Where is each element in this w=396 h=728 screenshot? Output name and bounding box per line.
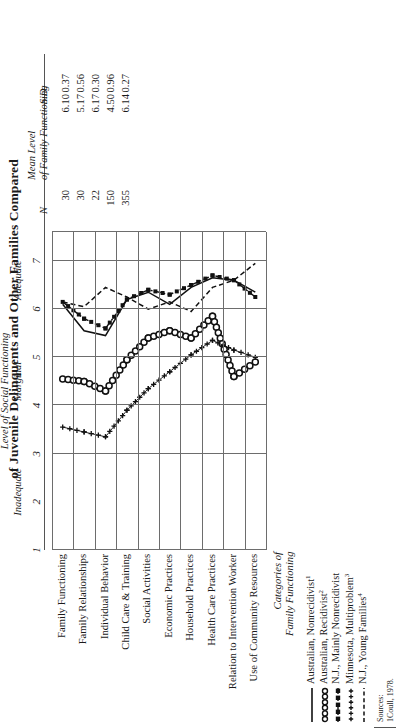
legend-footnote-ref: 3 [343,574,351,578]
axis-zone-adequate: Adequate [12,248,23,312]
sd-value: 0.37 [60,74,71,104]
category-label-9: Use of Community Resources [248,550,259,722]
n-value: 30 [60,190,71,214]
legend-marker-solid-line [307,688,317,722]
sd-value: 0.56 [75,74,86,104]
legend-marker-open-circles [320,688,330,722]
legend-swatch-solid-line [307,688,317,722]
scale-gridline-6 [52,308,266,309]
sd-column-header: S.D. [38,86,49,104]
n-value: 22 [90,190,101,214]
legend-swatch-plus-signs [346,688,356,722]
mean-level-value: 6.17 [90,94,101,180]
legend-label: N.J., Mainly Nonrecidivist [330,573,341,684]
mean-column-header-line1: Mean Level [26,131,37,180]
axis-zone-inadequate: Inadequate [12,460,23,524]
category-gridline [245,232,246,550]
scale-gridline-3 [52,453,266,454]
n-column-header: N [38,207,49,214]
scale-gridline-7 [52,260,266,261]
n-value: 355 [120,190,131,214]
category-gridline [223,232,224,550]
category-gridline [73,232,74,550]
legend-footnote-ref: 2 [317,590,325,594]
sources-line: Sources: [376,678,386,722]
category-gridline [159,232,160,550]
legend-swatch-dash-dot-squares [333,688,343,722]
legend-marker-dash-dot-squares [333,688,343,722]
scale-gridline-5 [52,356,266,357]
n-value: 150 [105,190,116,214]
axis-tick-2: 2 [30,491,42,513]
category-label-2: Individual Behavior [99,550,110,722]
category-gridline [266,232,267,550]
axis-tick-6: 6 [30,298,42,320]
category-label-5: Economic Practices [163,550,174,722]
category-gridline [202,232,203,550]
legend-label: Minnesota, Multiproblem3 [343,574,355,684]
legend-footnote-ref: 4 [356,593,364,597]
legend-label: Australian, Nonrecidivist1 [304,575,316,684]
page-title: of Juvenile Delinquents and Other Famili… [6,0,22,638]
legend: Australian, Nonrecidivist1Australian, Re… [306,422,396,722]
sources-note: Sources:1Coull, 1978. [376,678,396,722]
category-gridline [116,232,117,550]
axis-tick-4: 4 [30,394,42,416]
legend-label: Australian, Recidivist2 [317,590,329,684]
category-header-line1: Categories of [272,552,283,636]
category-label-6: Household Practices [184,550,195,722]
axis-tick-7: 7 [30,250,42,272]
sd-value: 0.96 [105,74,116,104]
axis-zone-marginal: Marginal [12,349,23,413]
legend-swatch-open-circles [320,688,330,722]
category-label-4: Social Activities [141,550,152,722]
sd-value: 0.30 [90,74,101,104]
mean-level-value: 5.17 [75,94,86,180]
legend-marker-plus-signs [346,688,356,722]
category-label-8: Relation to Intervention Worker [227,550,238,722]
category-gridline [52,232,53,550]
sources-line: 1Coull, 1978. [386,678,396,722]
category-gridline [180,232,181,550]
legend-label: N.J., Young Families4 [356,593,368,684]
legend-marker-dashed-line [359,688,369,722]
n-value: 30 [75,190,86,214]
category-label-1: Family Relationships [77,550,88,722]
category-label-0: Family Functioning [56,550,67,722]
category-header-line2: Family Functioning [284,552,295,636]
axis-tick-3: 3 [30,443,42,465]
legend-footnote-ref: 1 [304,575,312,579]
axis-title: Level of Social Functioning [0,321,10,461]
scale-gridline-4 [52,404,266,405]
category-gridline [95,232,96,550]
category-label-7: Health Care Practices [206,550,217,722]
mean-level-value: 6.14 [120,94,131,180]
mean-level-value: 6.10 [60,94,71,180]
legend-swatch-dashed-line [359,688,369,722]
axis-tick-5: 5 [30,346,42,368]
category-label-3: Child Care & Training [120,550,131,722]
sd-value: 0.27 [120,74,131,104]
plot-right-border [52,231,266,232]
axis-tick-1: 1 [30,539,42,561]
mean-level-value: 4.50 [105,94,116,180]
category-gridline [138,232,139,550]
